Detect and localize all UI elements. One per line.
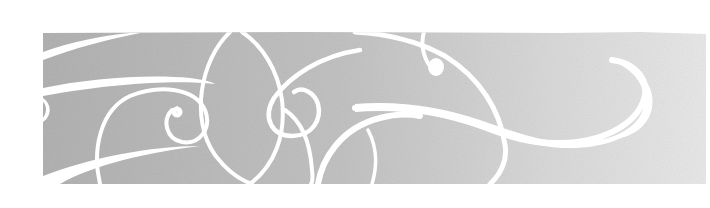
swirl-ornament-graphic [0,0,710,208]
decorative-swirl-banner [0,0,710,208]
swirl-dot [428,58,444,76]
